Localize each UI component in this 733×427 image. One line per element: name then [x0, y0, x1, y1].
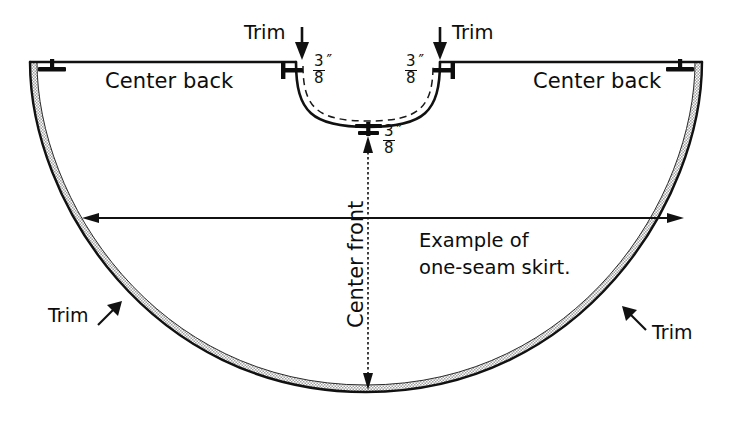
fraction-denominator: 8 [313, 71, 325, 87]
trim-label-bottom-right: Trim [652, 322, 692, 343]
double-headed-horizontal-arrow-icon [82, 213, 684, 223]
trim-label-bottom-left: Trim [48, 305, 88, 326]
example-caption-line-2: one-seam skirt. [419, 255, 570, 282]
fraction-denominator: 8 [383, 141, 395, 157]
inch-mark: ″ [419, 52, 425, 70]
arrow-down-icon-trim-right [433, 27, 447, 60]
trim-label-top-right: Trim [452, 22, 493, 44]
example-caption: Example of one-seam skirt. [419, 228, 570, 282]
tee-notch-icon-waist-left [281, 61, 303, 79]
center-front-label: Center front [345, 201, 369, 328]
skirt-pattern-diagram: Trim Trim Center back Center back 3 8 ″ … [0, 0, 733, 427]
fraction-denominator: 8 [405, 71, 417, 87]
measurement-center-front-seam: 3 8 ″ [383, 124, 402, 156]
center-back-label-left: Center back [105, 70, 233, 94]
tee-notch-icon-center-seam [355, 122, 382, 136]
measurement-waist-left: 3 8 ″ [313, 54, 332, 86]
arrow-down-icon-trim-left [295, 27, 309, 60]
center-back-label-right: Center back [533, 70, 661, 94]
measurement-waist-right: 3 8 ″ [405, 54, 424, 86]
inch-mark: ″ [397, 122, 403, 140]
arrow-up-left-icon-trim-right [622, 306, 646, 330]
inch-mark: ″ [327, 52, 333, 70]
tee-notch-icon-waist-right [433, 61, 455, 79]
trim-label-top-left: Trim [244, 22, 285, 44]
arrow-up-right-icon-trim-left [98, 301, 122, 325]
example-caption-line-1: Example of [419, 228, 570, 255]
